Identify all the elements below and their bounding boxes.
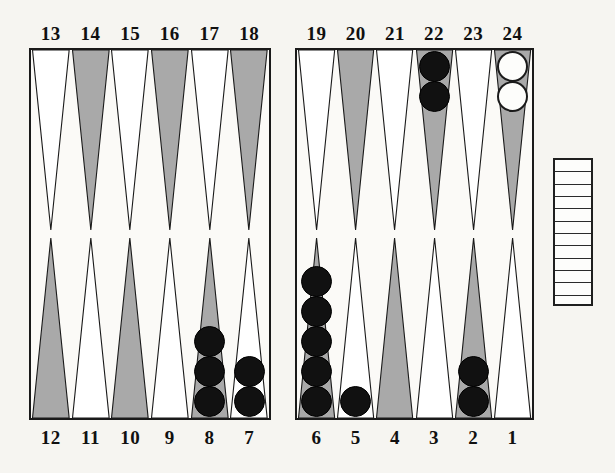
point-label-3: 3 [415, 428, 453, 447]
point-label-24: 24 [493, 24, 531, 43]
point-triangle-12[interactable] [31, 238, 71, 418]
point-label-6: 6 [298, 428, 336, 447]
point-triangle-23[interactable] [454, 50, 493, 230]
bearoff-slot[interactable] [555, 222, 591, 234]
checker-black-point-2[interactable] [458, 386, 489, 417]
point-label-21: 21 [376, 24, 414, 43]
checker-white-point-24[interactable] [497, 81, 528, 112]
bearoff-slot[interactable] [555, 283, 591, 295]
point-label-10: 10 [111, 428, 149, 447]
checker-black-point-22[interactable] [419, 51, 450, 82]
point-label-11: 11 [72, 428, 110, 447]
checker-black-point-7[interactable] [234, 356, 265, 387]
point-triangle-17[interactable] [190, 50, 230, 230]
point-label-4: 4 [376, 428, 414, 447]
point-label-2: 2 [454, 428, 492, 447]
point-label-9: 9 [151, 428, 189, 447]
point-label-14: 14 [72, 24, 110, 43]
point-triangle-15[interactable] [110, 50, 150, 230]
bearoff-slot[interactable] [555, 271, 591, 283]
point-label-15: 15 [111, 24, 149, 43]
bearoff-slot[interactable] [555, 259, 591, 271]
bearoff-slot[interactable] [555, 234, 591, 246]
point-label-20: 20 [337, 24, 375, 43]
point-triangle-1[interactable] [493, 238, 532, 418]
bearoff-slot[interactable] [555, 185, 591, 197]
point-triangle-3[interactable] [415, 238, 454, 418]
checker-black-point-6[interactable] [301, 386, 332, 417]
checker-black-point-6[interactable] [301, 266, 332, 297]
bearoff-slot[interactable] [555, 296, 591, 308]
point-label-18: 18 [230, 24, 268, 43]
bearoff-slot[interactable] [555, 197, 591, 209]
point-label-8: 8 [191, 428, 229, 447]
point-triangle-4[interactable] [375, 238, 414, 418]
checker-black-point-8[interactable] [194, 386, 225, 417]
checker-black-point-6[interactable] [301, 326, 332, 357]
backgammon-board: 131415161718192021222324121110987654321 [0, 0, 615, 473]
point-triangle-9[interactable] [150, 238, 190, 418]
point-triangle-10[interactable] [110, 238, 150, 418]
point-triangle-16[interactable] [150, 50, 190, 230]
point-label-17: 17 [191, 24, 229, 43]
bearoff-slot[interactable] [555, 246, 591, 258]
point-triangle-19[interactable] [297, 50, 336, 230]
point-triangle-14[interactable] [71, 50, 111, 230]
bearoff-slot[interactable] [555, 160, 591, 172]
bearoff-slot[interactable] [555, 209, 591, 221]
checker-black-point-6[interactable] [301, 296, 332, 327]
point-triangle-21[interactable] [375, 50, 414, 230]
point-triangle-18[interactable] [229, 50, 269, 230]
point-label-19: 19 [298, 24, 336, 43]
point-label-12: 12 [32, 428, 70, 447]
bearoff-slot[interactable] [555, 172, 591, 184]
point-label-23: 23 [454, 24, 492, 43]
checker-black-point-8[interactable] [194, 326, 225, 357]
point-label-7: 7 [230, 428, 268, 447]
point-triangle-20[interactable] [336, 50, 375, 230]
point-triangle-11[interactable] [71, 238, 111, 418]
point-label-13: 13 [32, 24, 70, 43]
point-label-22: 22 [415, 24, 453, 43]
checker-black-point-8[interactable] [194, 356, 225, 387]
bearoff-tray[interactable] [553, 158, 593, 306]
checker-black-point-2[interactable] [458, 356, 489, 387]
point-label-16: 16 [151, 24, 189, 43]
point-triangle-13[interactable] [31, 50, 71, 230]
checker-black-point-7[interactable] [234, 386, 265, 417]
point-label-1: 1 [493, 428, 531, 447]
point-label-5: 5 [337, 428, 375, 447]
checker-white-point-24[interactable] [497, 51, 528, 82]
checker-black-point-6[interactable] [301, 356, 332, 387]
checker-black-point-22[interactable] [419, 81, 450, 112]
